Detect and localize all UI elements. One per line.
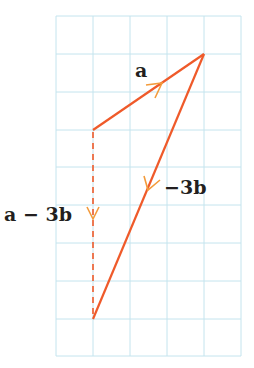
vector-diagram: a −3b a − 3b <box>0 0 254 368</box>
vector-a-minus-3b <box>87 132 99 317</box>
label-a-minus-3b: a − 3b <box>4 203 72 225</box>
label-minus-3b: −3b <box>164 176 206 198</box>
label-a: a <box>135 59 147 81</box>
